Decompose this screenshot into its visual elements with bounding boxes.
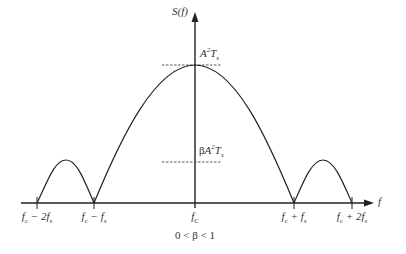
tick-label-fc-plus-2fs: fc + 2fs	[337, 210, 367, 225]
beta-condition-label: 0 < β < 1	[175, 229, 215, 241]
peak-value-label: A2Ts	[200, 46, 219, 62]
right-sidelobe-curve	[294, 160, 352, 203]
tick-label-fc-minus-2fs: fc − 2fs	[22, 210, 52, 225]
y-axis-label: S(f)	[172, 5, 188, 17]
tick-label-fc: fC	[191, 210, 199, 225]
left-sidelobe-curve	[37, 160, 94, 203]
x-axis-label: f	[378, 195, 381, 207]
x-axis-arrow-icon	[364, 200, 374, 207]
tick-label-fc-plus-fs: fc + fs	[282, 210, 307, 225]
y-axis-arrow-icon	[192, 12, 199, 22]
beta-value-label: βA2Ts	[199, 143, 224, 159]
tick-label-fc-minus-fs: fc − fs	[82, 210, 107, 225]
main-lobe-curve	[94, 65, 294, 203]
